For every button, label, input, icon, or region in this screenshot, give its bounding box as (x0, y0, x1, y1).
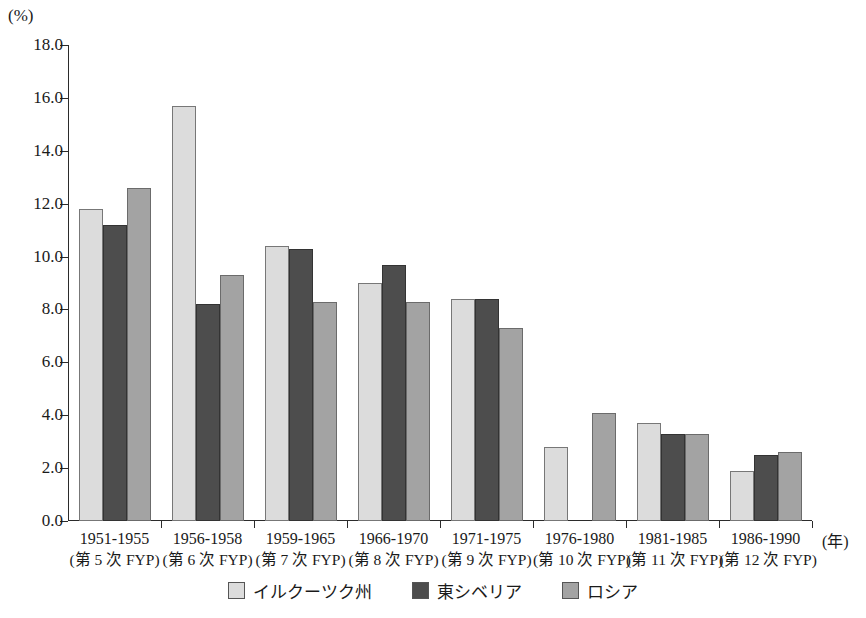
x-category-plan: (第 7 次 FYP) (254, 550, 347, 571)
x-category-plan: (第 11 次 FYP) (626, 550, 719, 571)
bar (451, 299, 475, 521)
x-axis-unit-label: (年) (822, 528, 849, 552)
bar-group (79, 45, 151, 521)
plot-area: 18.016.014.012.010.08.06.04.02.00.0 (68, 45, 812, 521)
y-tick-label: 10.0 (33, 247, 63, 267)
bar-group (358, 45, 430, 521)
bar (475, 299, 499, 521)
x-category-label: 1959-1965(第 7 次 FYP) (254, 528, 347, 571)
x-category-label: 1986-1990(第 12 次 FYP) (719, 528, 812, 571)
bar (127, 188, 151, 521)
bar (103, 225, 127, 521)
x-category-plan: (第 6 次 FYP) (161, 550, 254, 571)
y-tick-label: 18.0 (33, 35, 63, 55)
x-tick-mark (440, 521, 441, 528)
legend-item: 東シベリア (412, 578, 522, 603)
y-axis-line (68, 45, 69, 521)
bar (685, 434, 709, 521)
x-tick-mark (347, 521, 348, 528)
x-category-label: 1956-1958(第 6 次 FYP) (161, 528, 254, 571)
x-category-label: 1951-1955(第 5 次 FYP) (68, 528, 161, 571)
bar (196, 304, 220, 521)
x-category-label: 1966-1970(第 8 次 FYP) (347, 528, 440, 571)
x-category-years: 1966-1970 (347, 528, 440, 550)
x-category-years: 1986-1990 (719, 528, 812, 550)
x-category-plan: (第 8 次 FYP) (347, 550, 440, 571)
y-tick-label: 16.0 (33, 88, 63, 108)
bar (754, 455, 778, 521)
bar (265, 246, 289, 521)
x-category-years: 1951-1955 (68, 528, 161, 550)
chart-figure: (%) 18.016.014.012.010.08.06.04.02.00.0 … (0, 0, 866, 618)
chart-legend: イルクーツク州東シベリアロシア (0, 578, 866, 603)
y-tick-label: 4.0 (42, 405, 63, 425)
x-tick-mark (254, 521, 255, 528)
x-tick-mark (161, 521, 162, 528)
y-tick-label: 14.0 (33, 141, 63, 161)
bar (358, 283, 382, 521)
bar-group (265, 45, 337, 521)
y-tick-label: 8.0 (42, 299, 63, 319)
legend-label: イルクーツク州 (253, 578, 372, 603)
bar-group (544, 45, 616, 521)
bar (172, 106, 196, 521)
x-category-years: 1959-1965 (254, 528, 347, 550)
x-tick-mark-end (812, 521, 813, 528)
bar (637, 423, 661, 521)
bar (499, 328, 523, 521)
bar-group (730, 45, 802, 521)
bar (79, 209, 103, 521)
bar (778, 452, 802, 521)
legend-swatch (562, 582, 579, 599)
x-tick-mark (533, 521, 534, 528)
bar (289, 249, 313, 521)
bar-group (637, 45, 709, 521)
y-tick-label: 0.0 (42, 511, 63, 531)
bar (406, 302, 430, 521)
x-category-plan: (第 5 次 FYP) (68, 550, 161, 571)
y-axis-unit-label: (%) (8, 6, 33, 26)
legend-swatch (412, 582, 429, 599)
bar (592, 413, 616, 521)
y-tick-label: 2.0 (42, 458, 63, 478)
legend-label: 東シベリア (437, 578, 522, 603)
legend-item: ロシア (562, 578, 638, 603)
x-category-plan: (第 9 次 FYP) (440, 550, 533, 571)
bar (382, 265, 406, 522)
bar-group (451, 45, 523, 521)
bar-group (172, 45, 244, 521)
x-category-years: 1971-1975 (440, 528, 533, 550)
x-category-plan: (第 12 次 FYP) (719, 550, 812, 571)
x-tick-mark (719, 521, 720, 528)
x-category-years: 1956-1958 (161, 528, 254, 550)
bar (544, 447, 568, 521)
x-category-label: 1981-1985(第 11 次 FYP) (626, 528, 719, 571)
bar (220, 275, 244, 521)
x-category-plan: (第 10 次 FYP) (533, 550, 626, 571)
legend-item: イルクーツク州 (228, 578, 372, 603)
x-category-years: 1976-1980 (533, 528, 626, 550)
x-category-years: 1981-1985 (626, 528, 719, 550)
bar (730, 471, 754, 521)
x-category-label: 1976-1980(第 10 次 FYP) (533, 528, 626, 571)
y-tick-label: 6.0 (42, 352, 63, 372)
bar (661, 434, 685, 521)
y-tick-label: 12.0 (33, 194, 63, 214)
x-category-label: 1971-1975(第 9 次 FYP) (440, 528, 533, 571)
legend-label: ロシア (587, 578, 638, 603)
bar (313, 302, 337, 521)
legend-swatch (228, 582, 245, 599)
x-tick-mark (626, 521, 627, 528)
